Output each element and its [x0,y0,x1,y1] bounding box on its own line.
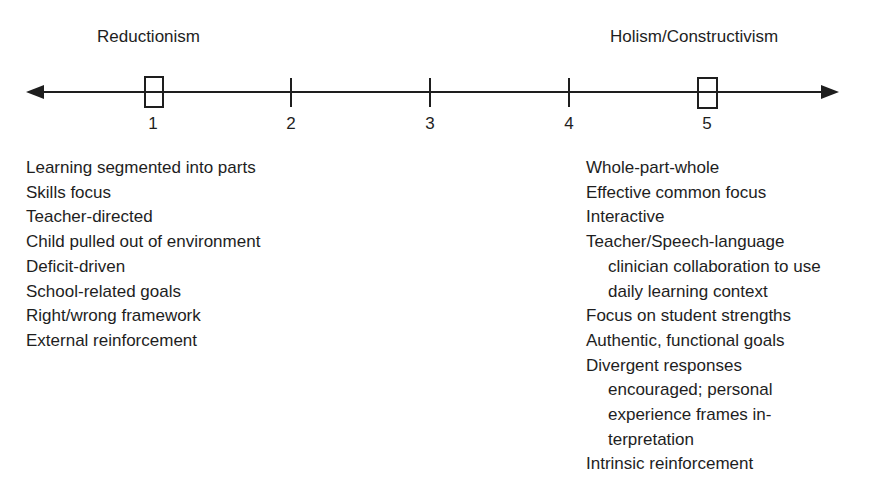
list-item-continuation: clinician collaboration to use [586,255,821,280]
list-item: Effective common focus [586,181,821,206]
list-item: Learning segmented into parts [26,156,260,181]
left-arrowhead-icon [26,85,44,99]
list-item-continuation: encouraged; personal [586,378,821,403]
holism-traits-list: Whole-part-whole Effective common focus … [586,156,821,477]
list-item-text: Teacher/Speech-language [586,232,784,251]
list-item: Interactive [586,205,821,230]
reductionism-traits-list: Learning segmented into parts Skills foc… [26,156,260,354]
tick-label-3: 3 [415,114,445,134]
list-item: Intrinsic reinforcement [586,452,821,477]
list-item-continuation: terpretation [586,428,821,453]
list-item-continuation: experience frames in- [586,403,821,428]
right-arrowhead-icon [821,85,839,99]
list-item-text: Focus on student strengths [586,306,791,325]
list-item-text: Intrinsic reinforcement [586,454,753,473]
list-item: Skills focus [26,181,260,206]
list-item-text: Interactive [586,207,664,226]
tick-label-5: 5 [692,114,722,134]
list-item-continuation: daily learning context [586,280,821,305]
list-item: Authentic, functional goals [586,329,821,354]
list-item: External reinforcement [26,329,260,354]
tick-label-2: 2 [276,114,306,134]
tick-label-1: 1 [138,114,168,134]
list-item-text: Effective common focus [586,183,766,202]
list-item: Child pulled out of environment [26,230,260,255]
tick-label-4: 4 [554,114,584,134]
list-item: School-related goals [26,280,260,305]
list-item-text: Whole-part-whole [586,158,719,177]
list-item: Right/wrong framework [26,304,260,329]
list-item: Divergent responses encouraged; personal… [586,354,821,453]
list-item-text: Authentic, functional goals [586,331,784,350]
list-item: Teacher-directed [26,205,260,230]
list-item: Teacher/Speech-language clinician collab… [586,230,821,304]
list-item: Deficit-driven [26,255,260,280]
list-item: Focus on student strengths [586,304,821,329]
list-item: Whole-part-whole [586,156,821,181]
list-item-text: Divergent responses [586,356,742,375]
